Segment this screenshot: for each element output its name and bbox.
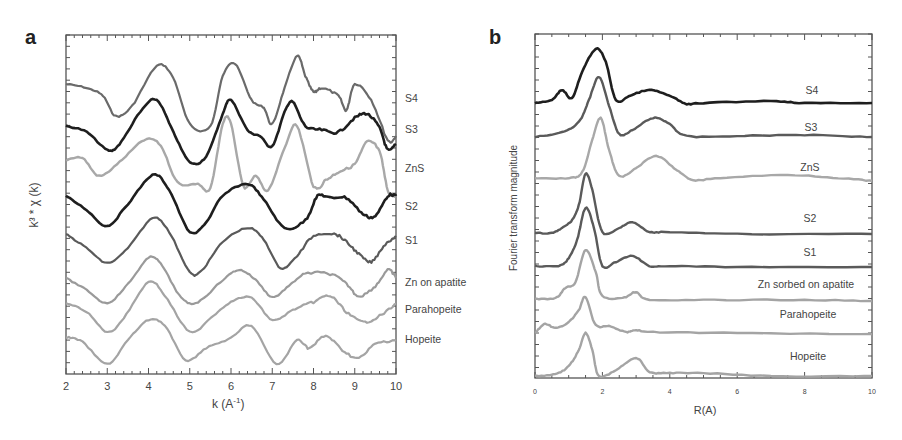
x-tick-label: 9 (352, 380, 358, 392)
x-tick-label: 5 (187, 380, 193, 392)
curve-s2 (66, 174, 396, 233)
panel-b-x-axis-title: R(A) (694, 404, 717, 416)
series-label: Zn on apatite (405, 276, 466, 288)
x-tick-label: 0 (533, 388, 537, 395)
series-label: S2 (405, 200, 418, 212)
panel-b-fourier-chart: 0246810 S4S3ZnSS2S1Zn sorbed on apatiteP… (508, 34, 876, 416)
x-tick-label: 3 (104, 380, 110, 392)
panel-b-series-labels: S4S3ZnSS2S1Zn sorbed on apatiteParahopei… (758, 84, 854, 362)
x-tick-label: 6 (735, 388, 739, 395)
x-tick-label: 10 (390, 380, 402, 392)
x-tick-label: 2 (600, 388, 604, 395)
panel-a-frame (66, 35, 396, 374)
panel-a-ticks (66, 35, 396, 374)
series-label: S1 (405, 234, 418, 246)
curve-s3 (535, 77, 872, 137)
curve-hopeite (66, 319, 396, 364)
x-tick-label: 4 (145, 380, 151, 392)
curve-zn-sorbed-on-apatite (535, 250, 872, 301)
x-tick-label: 7 (269, 380, 275, 392)
panel-b-x-tick-labels: 0246810 (533, 388, 876, 395)
panel-b-ticks (535, 34, 872, 378)
curve-parahopeite (66, 281, 396, 332)
curve-s4 (535, 48, 872, 104)
panel-a-curves (66, 56, 396, 365)
x-tick-label: 8 (803, 388, 807, 395)
curve-zn-on-apatite (66, 256, 396, 304)
x-tick-label: 8 (310, 380, 316, 392)
x-tick-label: 2 (63, 380, 69, 392)
series-label: ZnS (800, 161, 819, 173)
panel-b-y-axis-title: Fourier transform magnitude (508, 144, 519, 271)
x-tick-label: 10 (868, 388, 876, 395)
curve-s1 (66, 218, 396, 276)
x-tick-label: 6 (228, 380, 234, 392)
chart-canvas: 2345678910 S4S3ZnSS2S1Zn on apatiteParah… (0, 0, 902, 440)
panel-a-x-axis-title: k (A-1) (212, 396, 244, 411)
panel-b-curves (535, 48, 872, 377)
panel-a-exafs-chart: 2345678910 S4S3ZnSS2S1Zn on apatiteParah… (27, 35, 466, 411)
panel-b-frame (535, 34, 872, 378)
series-label: Hopeite (405, 333, 441, 345)
series-label: S3 (805, 121, 818, 133)
curve-s2 (535, 173, 872, 234)
curve-zns (535, 118, 872, 181)
series-label: Parahopeite (780, 308, 837, 320)
series-label: Parahopeite (405, 303, 462, 315)
series-label: ZnS (405, 162, 424, 174)
panel-a-x-tick-labels: 2345678910 (63, 380, 402, 392)
series-label: S4 (405, 92, 418, 104)
curve-s1 (535, 208, 872, 268)
series-label: S2 (804, 212, 817, 224)
series-label: S1 (804, 246, 817, 258)
series-label: Zn sorbed on apatite (758, 278, 854, 290)
series-label: S4 (806, 84, 819, 96)
panel-a-series-labels: S4S3ZnSS2S1Zn on apatiteParahopeiteHopei… (405, 92, 466, 345)
panel-a-y-axis-title: k³ * χ (k) (27, 183, 41, 228)
x-tick-label: 4 (668, 388, 672, 395)
series-label: S3 (405, 123, 418, 135)
series-label: Hopeite (790, 350, 826, 362)
